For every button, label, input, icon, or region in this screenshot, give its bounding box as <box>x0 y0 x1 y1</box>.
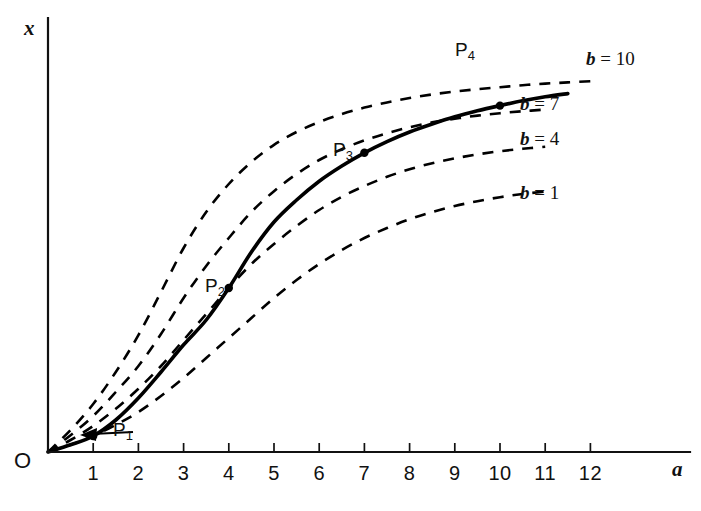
point-label-p4: P4 <box>455 39 475 61</box>
origin-label: O <box>14 448 31 474</box>
x-tick-label-11: 11 <box>529 462 561 485</box>
curve-envelope <box>48 94 568 452</box>
x-tick-label-2: 2 <box>122 462 154 485</box>
point-label-p2: P2 <box>205 275 225 297</box>
x-axis-label: a <box>672 457 683 482</box>
point-markers-layer <box>89 101 504 440</box>
curve-label-b7: b = 7 <box>520 93 559 115</box>
marked-point-p3 <box>360 149 368 157</box>
x-axis-ticks <box>93 443 590 452</box>
x-tick-label-8: 8 <box>394 462 426 485</box>
x-tick-label-5: 5 <box>258 462 290 485</box>
x-tick-label-1: 1 <box>77 462 109 485</box>
marked-point-p2 <box>225 284 233 292</box>
marked-point-p4 <box>496 101 504 109</box>
x-tick-label-7: 7 <box>348 462 380 485</box>
curve-b-4 <box>48 147 545 452</box>
curves-layer <box>48 81 590 452</box>
point-label-p3: P3 <box>333 139 353 161</box>
figure-canvas: x a O 123456789101112 b = 10 b = 7 b = 4… <box>0 0 701 511</box>
point-label-p1: P1 <box>113 419 133 441</box>
curve-label-b1: b = 1 <box>520 182 559 204</box>
y-axis-label: x <box>24 16 35 41</box>
curve-b-10 <box>48 81 590 452</box>
curve-label-b4: b = 4 <box>520 128 559 150</box>
x-tick-label-12: 12 <box>574 462 606 485</box>
plot-svg <box>0 0 701 511</box>
curve-label-b10: b = 10 <box>586 48 635 70</box>
x-tick-label-3: 3 <box>168 462 200 485</box>
x-tick-label-9: 9 <box>439 462 471 485</box>
x-tick-label-4: 4 <box>213 462 245 485</box>
x-tick-label-6: 6 <box>303 462 335 485</box>
x-tick-label-10: 10 <box>484 462 516 485</box>
